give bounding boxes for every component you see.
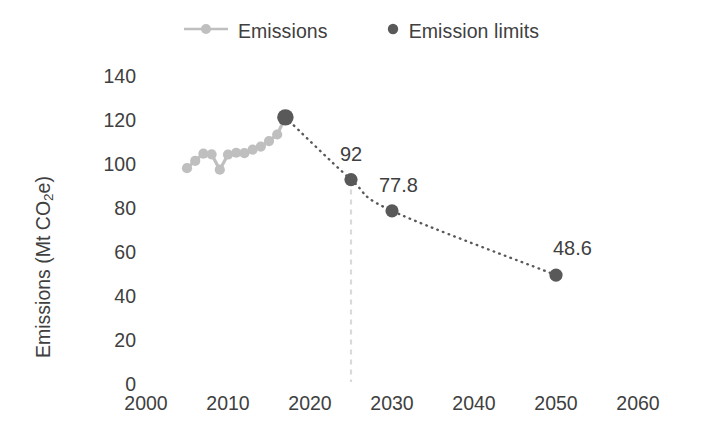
data-point-emissions	[215, 165, 225, 175]
data-label-48-6: 48.6	[553, 237, 592, 260]
data-point-emission-limit	[549, 268, 562, 281]
data-point-emissions	[190, 156, 200, 166]
data-label-92: 92	[340, 143, 362, 166]
data-point-emissions	[182, 163, 192, 173]
data-point-emission-limit	[344, 173, 357, 186]
data-point-emissions	[272, 129, 282, 139]
plot-area	[0, 0, 722, 433]
emissions-chart: Emissions Emission limits Emissions (Mt …	[0, 0, 722, 433]
data-label-77-8: 77.8	[379, 174, 418, 197]
series-line-emission-limits	[285, 117, 556, 275]
data-point-emission-limit	[277, 109, 293, 125]
data-point-emission-limit	[385, 204, 398, 217]
data-point-emissions	[207, 149, 217, 159]
data-point-emissions	[264, 136, 274, 146]
